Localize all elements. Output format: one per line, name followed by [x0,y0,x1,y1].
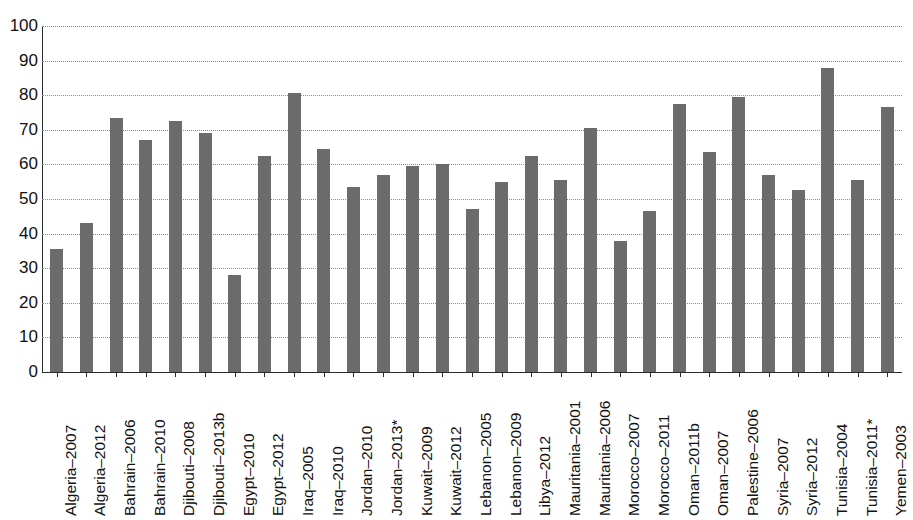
x-tick-label: Djibouti–2008 [181,378,196,516]
bar [851,180,864,372]
x-tick-label: Djibouti–2013b [211,378,226,516]
x-tick-mark [235,372,236,377]
y-tick-label: 40 [0,225,38,242]
bar [377,175,390,372]
bar [436,164,449,372]
bar [317,149,330,372]
x-tick-label: Jordan–2010 [359,378,374,516]
bar [554,180,567,372]
bar [673,104,686,372]
x-tick-label: Kuwait–2012 [448,378,463,516]
x-tick-label: Morocco–2011 [656,378,671,516]
x-tick-label: Algeria–2007 [63,378,78,516]
x-tick-mark [502,372,503,377]
x-tick-label: Mauritania–2006 [597,378,612,516]
x-tick-label: Mauritania–2001 [567,378,582,516]
bar-chart: 1009080706050403020100 Algeria–2007Alger… [0,0,913,520]
x-tick-mark [591,372,592,377]
chart-title-clipped [0,0,913,10]
bar [347,187,360,372]
x-tick-label: Oman–2007 [715,378,730,516]
x-tick-mark [680,372,681,377]
bar [258,156,271,372]
x-tick-label: Iraq–2005 [300,378,315,516]
x-tick-mark [531,372,532,377]
x-tick-mark [146,372,147,377]
x-tick-label: Oman–2011b [686,378,701,516]
x-tick-mark [739,372,740,377]
x-tick-label: Tunisia–2011* [864,378,879,516]
bar [169,121,182,372]
x-tick-mark [858,372,859,377]
x-tick-mark [709,372,710,377]
x-tick-mark [798,372,799,377]
x-tick-mark [561,372,562,377]
y-tick-label: 70 [0,121,38,138]
bar [821,68,834,372]
x-tick-label: Kuwait–2009 [419,378,434,516]
x-tick-mark [86,372,87,377]
x-tick-mark [769,372,770,377]
bar [614,241,627,372]
bar [732,97,745,372]
y-tick-label: 80 [0,86,38,103]
x-tick-label: Syria–2007 [775,378,790,516]
x-tick-mark [205,372,206,377]
x-tick-label: Egypt–2012 [270,378,285,516]
bar [881,107,894,372]
x-tick-mark [294,372,295,377]
bar [466,209,479,372]
bar [643,211,656,372]
bar [495,182,508,372]
x-axis: Algeria–2007Algeria–2012Bahrain–2006Bahr… [42,378,902,520]
x-tick-mark [264,372,265,377]
bar [525,156,538,372]
y-tick-label: 30 [0,259,38,276]
bar [139,140,152,372]
bar [110,118,123,372]
bar [406,166,419,372]
x-tick-mark [442,372,443,377]
x-tick-label: Iraq–2010 [330,378,345,516]
y-tick-label: 20 [0,294,38,311]
bar [50,249,63,372]
x-tick-mark [353,372,354,377]
x-tick-mark [116,372,117,377]
bar [199,133,212,372]
x-tick-mark [57,372,58,377]
bar [792,190,805,372]
y-tick-label: 0 [0,363,38,380]
bar [584,128,597,372]
bars-layer [42,26,902,372]
x-tick-mark [324,372,325,377]
bar [288,93,301,372]
bar [80,223,93,372]
y-tick-label: 50 [0,190,38,207]
x-tick-label: Bahrain–2010 [152,378,167,516]
x-tick-label: Jordan–2013* [389,378,404,516]
x-tick-label: Tunisia–2004 [834,378,849,516]
x-tick-mark [472,372,473,377]
x-tick-mark [887,372,888,377]
bar [228,275,241,372]
x-tick-mark [620,372,621,377]
y-tick-label: 100 [0,17,38,34]
x-tick-label: Palestine–2006 [745,378,760,516]
x-tick-mark [413,372,414,377]
x-tick-label: Bahrain–2006 [122,378,137,516]
y-tick-label: 60 [0,155,38,172]
x-tick-mark [828,372,829,377]
x-tick-label: Yemen–2003 [893,378,908,516]
x-tick-mark [383,372,384,377]
x-tick-label: Libya–2012 [537,378,552,516]
y-tick-label: 90 [0,52,38,69]
x-tick-label: Morocco–2007 [626,378,641,516]
x-tick-label: Syria–2012 [804,378,819,516]
x-tick-mark [650,372,651,377]
x-tick-label: Algeria–2012 [92,378,107,516]
x-tick-label: Egypt–2010 [241,378,256,516]
bar [762,175,775,372]
plot-area [42,26,902,372]
x-tick-label: Lebanon–2009 [508,378,523,516]
y-axis: 1009080706050403020100 [0,0,38,520]
